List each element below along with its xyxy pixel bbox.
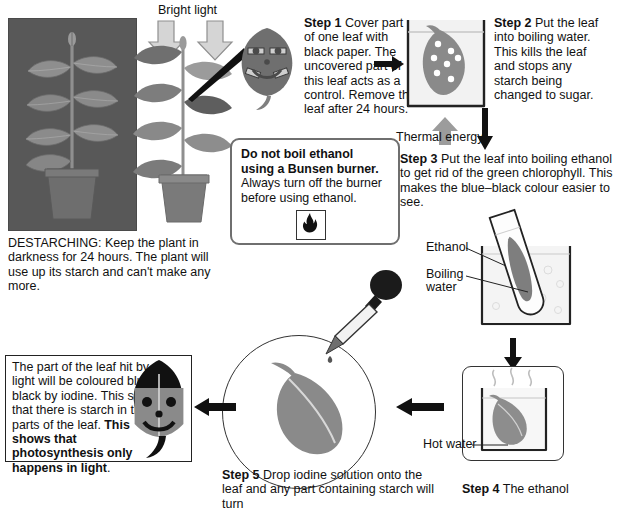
step2-label: Step 2	[494, 16, 532, 30]
plant-in-darkness-illustration	[9, 19, 136, 230]
warning-line1: Do not boil ethanol	[241, 147, 353, 161]
step4-text: Step 4 The ethanol	[462, 482, 612, 496]
thermal-energy-label: Thermal energy	[396, 130, 484, 144]
arrow-step1-to-step2	[374, 56, 404, 72]
step4-label: Step 4	[462, 482, 500, 496]
leaf-in-petri-dish	[255, 355, 365, 465]
leaf-with-black-paper	[236, 26, 298, 112]
step3-label: Step 3	[400, 152, 438, 166]
step2-text: Step 2 Put the leaf into boiling water. …	[494, 16, 606, 102]
warning-line3: Always turn off the burner	[241, 176, 382, 190]
step5-text: Step 5 Drop iodine solution onto the lea…	[222, 468, 442, 511]
warning-line4: before using ethanol.	[241, 191, 357, 205]
ethanol-label: Ethanol	[426, 240, 468, 254]
arrow-step5-to-result	[194, 398, 236, 416]
arrow-step4-to-step5	[396, 398, 444, 416]
step5-label: Step 5	[222, 468, 260, 482]
ethanol-leader-line	[466, 244, 530, 300]
destarched-plant-photo	[8, 18, 137, 231]
boiling-water-beaker	[404, 18, 488, 116]
arrow-step2-to-step3	[477, 108, 493, 150]
hot-water-label: Hot water	[423, 437, 477, 451]
iodine-stained-leaf-face	[126, 358, 192, 460]
bright-light-label: Bright light	[158, 3, 217, 17]
flammable-hazard-icon	[296, 210, 326, 240]
step3-text: Step 3 Put the leaf into boiling ethanol…	[400, 152, 616, 210]
destarching-caption: DESTARCHING: Keep the plant in darkness …	[8, 236, 213, 294]
step1-label: Step 1	[304, 16, 342, 30]
safety-warning-text: Do not boil ethanol using a Bunsen burne…	[241, 147, 393, 205]
step4-body: The ethanol	[500, 482, 569, 496]
result-tail: .	[107, 461, 110, 475]
pipette-dropper	[325, 268, 405, 360]
safety-warning-box: Do not boil ethanol using a Bunsen burne…	[230, 138, 400, 245]
warning-line2: using a Bunsen burner.	[241, 162, 379, 176]
hot-water-leader-line	[472, 442, 508, 448]
